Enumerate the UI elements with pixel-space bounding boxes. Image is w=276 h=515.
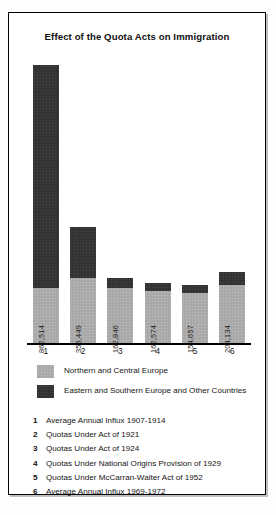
caption-list: 1Average Annual Influx 1907-19142Quotas … [33,416,265,501]
caption-number: 6 [33,487,46,496]
bar-2: 356,449 [70,227,96,343]
caption-text: Average Annual Influx 1907-1914 [46,416,166,425]
legend-item-1: Northern and Central Europe [37,365,262,378]
dark-gray-swatch [37,385,54,398]
bar-6: 204,134 [219,272,245,343]
chart-legend: Northern and Central EuropeEastern and S… [37,365,262,405]
page-title: Effect of the Quota Acts on Immigration [9,31,265,42]
caption-item-4: 4Quotas Under National Origins Provision… [33,459,265,468]
x-tick-1: 1 [33,347,59,356]
caption-text: Quotas Under Act of 1924 [46,444,139,453]
x-axis-line [27,343,251,345]
legend-item-2: Eastern and Southern Europe and Other Co… [37,385,262,398]
caption-text: Quotas Under National Origins Provision … [46,459,221,468]
caption-text: Quotas Under McCarran-Walter Act of 1952 [46,473,203,482]
caption-text: Average Annual Influx 1969-1972 [46,487,166,496]
caption-item-1: 1Average Annual Influx 1907-1914 [33,416,265,425]
caption-item-5: 5Quotas Under McCarran-Walter Act of 195… [33,473,265,482]
bar-4: 162,574 [145,283,171,343]
x-tick-6: 6 [219,347,245,356]
caption-item-2: 2Quotas Under Act of 1921 [33,430,265,439]
bar-segment-northern-central: 154,657 [182,293,208,343]
plot-area: 862,514356,449162,846162,574154,657204,1… [27,53,251,345]
x-tick-3: 3 [107,347,133,356]
bar-segment-eastern-southern [33,65,59,288]
legend-label: Northern and Central Europe [64,367,168,376]
bar-segment-eastern-southern [182,285,208,293]
chart-page: Effect of the Quota Acts on Immigration … [0,0,276,515]
caption-text: Quotas Under Act of 1921 [46,430,139,439]
bar-segment-northern-central: 356,449 [70,278,96,343]
caption-number: 5 [33,473,46,482]
x-tick-5: 5 [182,347,208,356]
x-tick-2: 2 [70,347,96,356]
bar-segment-northern-central: 204,134 [219,285,245,343]
caption-number: 1 [33,416,46,425]
bar-1: 862,514 [33,65,59,343]
bar-5: 154,657 [182,285,208,343]
bar-series-group: 862,514356,449162,846162,574154,657204,1… [27,53,251,343]
caption-number: 4 [33,459,46,468]
bar-segment-eastern-southern [70,227,96,278]
bar-segment-eastern-southern [219,272,245,285]
bar-segment-northern-central: 162,846 [107,288,133,343]
caption-number: 3 [33,444,46,453]
light-gray-swatch [37,365,54,378]
caption-item-3: 3Quotas Under Act of 1924 [33,444,265,453]
caption-item-6: 6Average Annual Influx 1969-1972 [33,487,265,496]
bar-segment-northern-central: 162,574 [145,291,171,343]
x-axis-tick-labels: 123456 [27,347,251,361]
x-tick-4: 4 [145,347,171,356]
bar-segment-eastern-southern [107,278,133,288]
caption-number: 2 [33,430,46,439]
bar-segment-northern-central: 862,514 [33,288,59,343]
bar-3: 162,846 [107,278,133,343]
chart-frame: Effect of the Quota Acts on Immigration … [8,12,266,495]
legend-label: Eastern and Southern Europe and Other Co… [64,387,246,396]
bar-segment-eastern-southern [145,283,171,291]
